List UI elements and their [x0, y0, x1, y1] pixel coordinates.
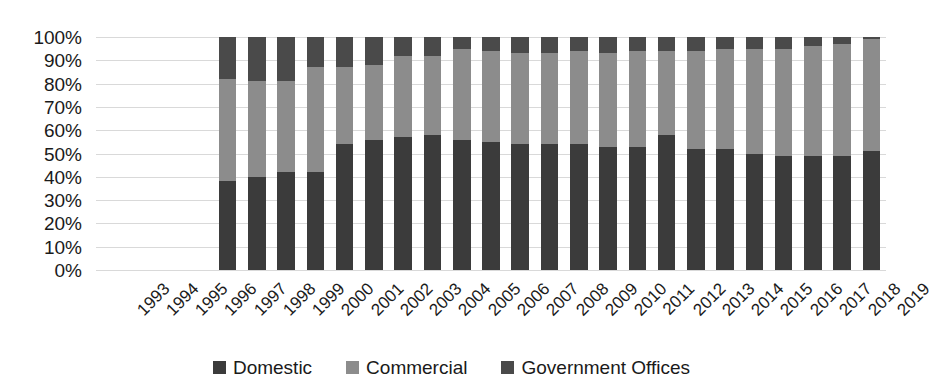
bar-segment[interactable]	[541, 53, 559, 144]
bar-group[interactable]	[716, 37, 734, 270]
bar-segment[interactable]	[658, 51, 676, 135]
bar-segment[interactable]	[394, 56, 412, 138]
bar-segment[interactable]	[629, 37, 647, 51]
bar-segment[interactable]	[394, 137, 412, 270]
bar-segment[interactable]	[365, 65, 383, 140]
bar-group[interactable]	[248, 37, 266, 270]
bar-segment[interactable]	[365, 140, 383, 270]
bar-segment[interactable]	[511, 144, 529, 270]
bar-segment[interactable]	[687, 149, 705, 270]
bar-segment[interactable]	[599, 53, 617, 146]
bar-group[interactable]	[511, 37, 529, 270]
bar-group[interactable]	[336, 37, 354, 270]
bar-segment[interactable]	[570, 51, 588, 144]
bar-group[interactable]	[746, 37, 764, 270]
bar-segment[interactable]	[277, 81, 295, 172]
bar-segment[interactable]	[658, 37, 676, 51]
bar-segment[interactable]	[394, 37, 412, 56]
bar-segment[interactable]	[541, 144, 559, 270]
bar-group[interactable]	[365, 37, 383, 270]
bar-group[interactable]	[863, 37, 881, 270]
bar-segment[interactable]	[307, 37, 325, 67]
bar-group[interactable]	[687, 37, 705, 270]
bars-layer	[96, 37, 886, 270]
bar-segment[interactable]	[687, 51, 705, 149]
bar-segment[interactable]	[599, 37, 617, 53]
bar-segment[interactable]	[307, 172, 325, 270]
bar-segment[interactable]	[746, 49, 764, 154]
bar-segment[interactable]	[570, 37, 588, 51]
bar-segment[interactable]	[716, 149, 734, 270]
bar-segment[interactable]	[219, 181, 237, 270]
bar-segment[interactable]	[307, 67, 325, 172]
bar-segment[interactable]	[863, 39, 881, 151]
bar-segment[interactable]	[248, 37, 266, 81]
bar-segment[interactable]	[833, 44, 851, 156]
bar-segment[interactable]	[804, 156, 822, 270]
bar-group[interactable]	[629, 37, 647, 270]
legend-item[interactable]: Domestic	[213, 358, 312, 377]
bar-group[interactable]	[541, 37, 559, 270]
bar-group[interactable]	[394, 37, 412, 270]
bar-group[interactable]	[453, 37, 471, 270]
bar-segment[interactable]	[277, 172, 295, 270]
bar-segment[interactable]	[775, 49, 793, 156]
bar-segment[interactable]	[424, 37, 442, 56]
y-axis-tick-label: 100%	[33, 28, 82, 47]
bar-segment[interactable]	[541, 37, 559, 53]
bar-segment[interactable]	[248, 177, 266, 270]
bar-segment[interactable]	[482, 37, 500, 51]
bar-segment[interactable]	[833, 37, 851, 44]
x-axis-tick-label: 1996	[221, 280, 260, 319]
bar-segment[interactable]	[248, 81, 266, 177]
bar-group[interactable]	[424, 37, 442, 270]
bar-segment[interactable]	[775, 156, 793, 270]
bar-segment[interactable]	[277, 37, 295, 81]
bar-group[interactable]	[833, 37, 851, 270]
bar-group[interactable]	[658, 37, 676, 270]
bar-segment[interactable]	[511, 37, 529, 53]
bar-segment[interactable]	[511, 53, 529, 144]
bar-segment[interactable]	[629, 51, 647, 147]
bar-segment[interactable]	[453, 37, 471, 49]
bar-segment[interactable]	[716, 37, 734, 49]
bar-segment[interactable]	[746, 154, 764, 271]
bar-segment[interactable]	[629, 147, 647, 270]
bar-segment[interactable]	[424, 135, 442, 270]
bar-group[interactable]	[804, 37, 822, 270]
bar-group[interactable]	[277, 37, 295, 270]
bar-segment[interactable]	[804, 37, 822, 46]
legend-item[interactable]: Commercial	[346, 358, 467, 377]
bar-group[interactable]	[570, 37, 588, 270]
bar-segment[interactable]	[863, 151, 881, 270]
bar-segment[interactable]	[775, 37, 793, 49]
bar-segment[interactable]	[658, 135, 676, 270]
bar-group[interactable]	[775, 37, 793, 270]
bar-segment[interactable]	[219, 37, 237, 79]
bar-segment[interactable]	[716, 49, 734, 149]
bar-segment[interactable]	[365, 37, 383, 65]
bar-segment[interactable]	[336, 37, 354, 67]
legend-item[interactable]: Government Offices	[501, 358, 690, 377]
bar-segment[interactable]	[687, 37, 705, 51]
bar-segment[interactable]	[746, 37, 764, 49]
bar-segment[interactable]	[482, 142, 500, 270]
bar-segment[interactable]	[453, 49, 471, 140]
y-axis-tick-label: 10%	[44, 238, 82, 257]
bar-segment[interactable]	[219, 79, 237, 182]
bar-segment[interactable]	[336, 67, 354, 144]
bar-group[interactable]	[599, 37, 617, 270]
bar-segment[interactable]	[804, 46, 822, 156]
bar-segment[interactable]	[424, 56, 442, 135]
bar-group[interactable]	[307, 37, 325, 270]
bar-segment[interactable]	[336, 144, 354, 270]
bar-segment[interactable]	[863, 37, 881, 39]
bar-group[interactable]	[482, 37, 500, 270]
bar-segment[interactable]	[453, 140, 471, 270]
bar-segment[interactable]	[482, 51, 500, 142]
x-axis-tick-label: 2012	[690, 280, 729, 319]
bar-segment[interactable]	[599, 147, 617, 270]
bar-segment[interactable]	[833, 156, 851, 270]
bar-segment[interactable]	[570, 144, 588, 270]
bar-group[interactable]	[219, 37, 237, 270]
